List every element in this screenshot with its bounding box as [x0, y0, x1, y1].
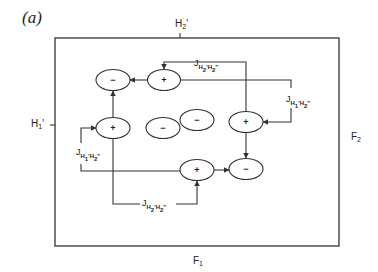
axis-label-left: H1' [31, 119, 44, 130]
svg-text:+: + [243, 117, 248, 127]
node-n7: + [180, 160, 214, 181]
node-n4: − [146, 118, 180, 139]
svg-text:+: + [161, 75, 166, 85]
node-n1: − [96, 70, 130, 91]
axis-label-top: H2' [175, 19, 188, 30]
cosy-pathway-diagram: − + + − − + + − [0, 0, 378, 272]
svg-text:+: + [110, 123, 115, 133]
coupling-label-top: JH2'H2" [194, 59, 218, 73]
node-n2: + [148, 70, 181, 91]
svg-text:−: − [194, 115, 199, 125]
svg-text:−: − [160, 123, 165, 133]
axis-label-bottom: F1 [193, 256, 203, 267]
coupling-label-left: JH1'H2" [76, 148, 100, 162]
svg-text:−: − [243, 164, 248, 174]
node-n3: + [96, 118, 130, 139]
svg-text:+: + [194, 165, 199, 175]
svg-text:−: − [110, 75, 115, 85]
node-n5: − [180, 110, 214, 131]
coupling-label-bottom: JH2'H2" [142, 199, 166, 213]
coupling-label-right: JH1'H2" [286, 95, 310, 109]
node-n6: + [229, 112, 263, 133]
node-n8: − [229, 159, 263, 180]
axis-label-right: F2 [351, 132, 361, 143]
